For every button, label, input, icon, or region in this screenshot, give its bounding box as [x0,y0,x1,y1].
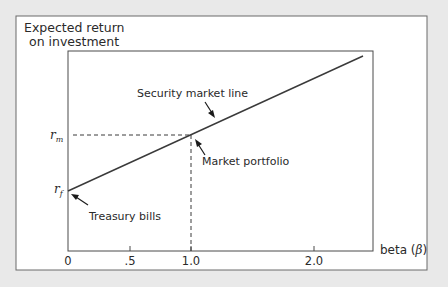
x-tick-label-1.0: 1.0 [182,254,200,268]
y-axis-title-line1: Expected return [24,20,125,35]
x-tick-label-0: 0 [64,254,71,268]
treasury-bills-label: Treasury bills [88,210,161,223]
x-axis-title: beta (β) [380,243,427,257]
sml-annotation-label: Security market line [137,87,248,100]
market-portfolio-label: Market portfolio [202,155,290,168]
y-axis-title-line2: on investment [29,34,119,49]
x-tick-label-0.5: .5 [125,254,136,268]
chart-svg: Expected return on investment 0 .5 1.0 2… [0,0,448,287]
chart-figure: Expected return on investment 0 .5 1.0 2… [0,0,448,287]
x-tick-label-2.0: 2.0 [305,254,323,268]
